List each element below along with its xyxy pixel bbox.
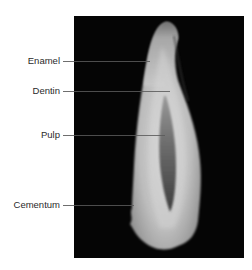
leader-line-enamel [63,61,74,62]
leader-line-enamel-inner [74,61,150,62]
label-enamel: Enamel [28,56,60,66]
leader-line-pulp-inner [74,135,165,136]
leader-line-dentin [63,91,74,92]
label-pulp: Pulp [41,130,60,140]
tooth-illustration [74,16,244,258]
label-dentin: Dentin [33,86,60,96]
leader-line-cementum [63,205,74,206]
leader-line-cementum-inner [74,205,134,206]
leader-line-pulp [63,135,74,136]
label-cementum: Cementum [14,200,60,210]
leader-line-dentin-inner [74,91,170,92]
tooth-section-photo [74,16,244,258]
